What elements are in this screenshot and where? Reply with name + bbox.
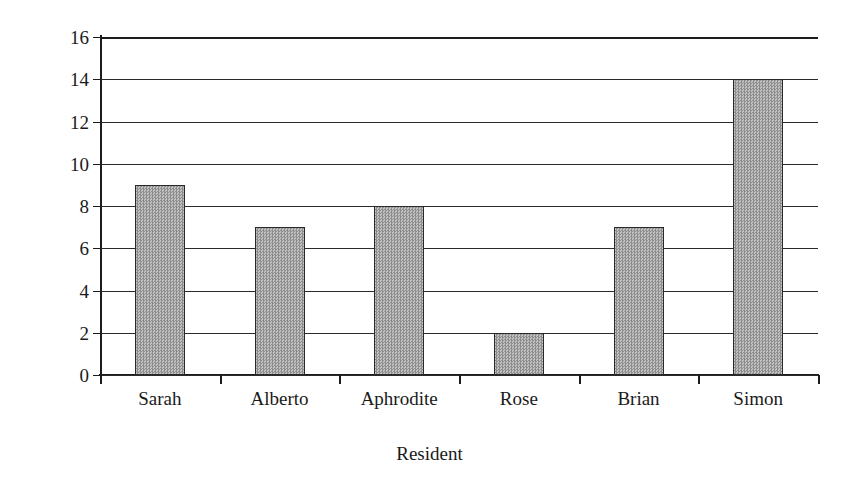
x-tick-mark — [459, 375, 461, 384]
y-tick-mark — [93, 164, 101, 165]
x-axis-title: Resident — [0, 443, 841, 465]
y-tick-mark — [93, 79, 101, 80]
x-tick-label: Rose — [459, 389, 579, 410]
y-tick-label: 12 — [70, 112, 89, 131]
y-tick-mark — [93, 206, 101, 207]
y-tick-label: 6 — [80, 239, 90, 258]
x-tick-label: Aphrodite — [339, 389, 459, 410]
bar-rose — [494, 333, 544, 375]
gridline — [100, 291, 818, 292]
y-tick-label: 4 — [80, 281, 90, 300]
y-tick-label: 0 — [80, 366, 90, 385]
gridline — [100, 164, 818, 165]
bar-aphrodite — [374, 206, 424, 375]
y-tick-label: 10 — [70, 154, 89, 173]
bar-sarah — [135, 185, 185, 375]
y-tick-label: 8 — [80, 197, 90, 216]
x-tick-mark — [220, 375, 222, 384]
y-tick-mark — [93, 122, 101, 123]
x-tick-mark — [579, 375, 581, 384]
x-tick-label: Alberto — [220, 389, 340, 410]
x-tick-label: Simon — [698, 389, 818, 410]
gridline — [100, 79, 818, 80]
y-tick-mark — [93, 291, 101, 292]
y-tick-label: 2 — [80, 323, 90, 342]
x-tick-mark — [818, 375, 820, 384]
x-tick-mark — [698, 375, 700, 384]
bar-brian — [614, 227, 664, 375]
bar-chart-figure: Frequency 0246810121416 SarahAlbertoAphr… — [0, 0, 841, 489]
y-tick-label: 16 — [70, 28, 89, 47]
gridline — [100, 248, 818, 249]
x-axis-title-label: Resident — [378, 443, 463, 465]
gridline — [100, 333, 818, 334]
x-tick-mark — [100, 375, 102, 384]
bar-simon — [733, 79, 783, 375]
y-tick-mark — [93, 37, 101, 38]
gridline — [100, 206, 818, 207]
x-tick-mark — [339, 375, 341, 384]
y-tick-mark — [93, 248, 101, 249]
bar-alberto — [255, 227, 305, 375]
x-tick-label: Sarah — [100, 389, 220, 410]
plot-area: 0246810121416 — [100, 37, 818, 375]
y-tick-label: 14 — [70, 70, 89, 89]
gridline — [100, 37, 818, 39]
gridline — [100, 122, 818, 123]
y-tick-mark — [93, 333, 101, 334]
x-tick-label: Brian — [579, 389, 699, 410]
